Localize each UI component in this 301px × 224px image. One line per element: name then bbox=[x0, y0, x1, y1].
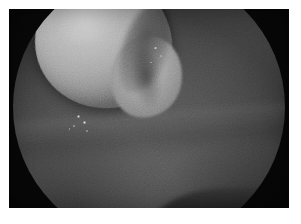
specular-1 bbox=[77, 115, 80, 118]
page-canvas: Grayscale endoscopic view through a circ… bbox=[0, 0, 301, 224]
image-alt-text: Grayscale endoscopic view through a circ… bbox=[0, 0, 1, 1]
circular-field-of-view bbox=[13, 9, 285, 208]
endoscopic-image-plate bbox=[9, 9, 289, 208]
specular-6 bbox=[160, 55, 162, 57]
specular-2 bbox=[83, 121, 86, 124]
specular-5 bbox=[154, 47, 156, 49]
